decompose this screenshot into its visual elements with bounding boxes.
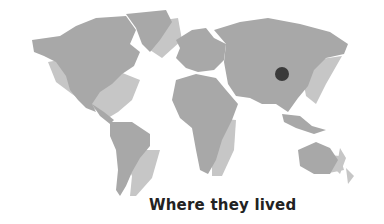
continent-australia <box>298 142 338 174</box>
landmass <box>32 10 348 196</box>
location-marker-icon <box>275 67 289 81</box>
map-caption: Where they lived <box>149 196 296 214</box>
world-map <box>0 0 384 224</box>
region-southeast-asia <box>282 114 326 134</box>
